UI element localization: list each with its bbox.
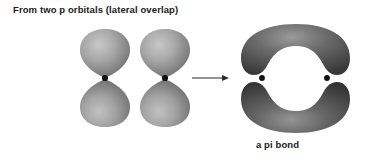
figure-caption: a pi bond bbox=[256, 139, 299, 150]
orbital-diagram-svg bbox=[0, 0, 369, 164]
pi-bond-nucleus-right bbox=[324, 75, 330, 81]
p-orbital-right-lower-lobe bbox=[140, 79, 190, 127]
reaction-arrow-head bbox=[222, 75, 229, 81]
orbital-overlap-figure: From two p orbitals (lateral overlap) bbox=[0, 0, 369, 164]
p-orbital-right-nucleus bbox=[162, 75, 168, 81]
p-orbital-left-nucleus bbox=[102, 75, 108, 81]
p-orbital-left-upper-lobe bbox=[80, 29, 130, 78]
pi-bond-nucleus-left bbox=[259, 75, 265, 81]
p-orbital-left bbox=[80, 29, 130, 127]
p-orbital-right-upper-lobe bbox=[140, 29, 190, 78]
p-orbital-right bbox=[140, 29, 190, 127]
pi-bond bbox=[241, 24, 350, 133]
p-orbital-left-lower-lobe bbox=[80, 79, 130, 127]
reaction-arrow bbox=[192, 75, 229, 81]
pi-bond-upper-lobe bbox=[241, 24, 350, 75]
pi-bond-lower-lobe bbox=[241, 82, 350, 133]
